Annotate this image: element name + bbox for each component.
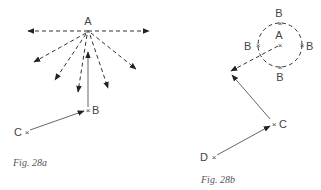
point-a-label: A [84,15,92,27]
point-b-top-marker: × [278,19,283,28]
solid-arrow-c-to-b [30,111,84,130]
dashed-arrow-down-right-1 [90,35,108,88]
dashed-arrow-down-left-1 [34,33,86,62]
point-c-marker: × [25,128,30,137]
dashed-arrow-a-to-lower-left [231,46,278,71]
figure-28a: × A × B × C Fig. 28a [12,15,149,168]
dashed-arrow-down-left-3 [78,35,87,92]
point-c-label: C [279,118,287,130]
point-c-label: C [14,126,22,138]
point-a-marker: × [86,27,91,36]
point-b-label: B [92,104,99,116]
point-b-top-label: B [275,7,282,19]
figure-caption-28a: Fig. 28a [12,157,47,168]
point-b-marker: × [86,106,91,115]
point-b-right-label: B [306,40,313,52]
point-d-label: D [200,151,208,163]
point-c-marker: × [272,120,277,129]
point-b-right-marker: × [300,41,305,50]
point-b-left-label: B [244,40,251,52]
point-b-left-marker: × [256,41,261,50]
dashed-arrow-down-right-2 [91,33,136,69]
point-a-marker: × [278,41,283,50]
diagram-canvas: × A × B × C Fig. 28a × A × B × B × B × B… [0,0,321,190]
point-d-marker: × [212,153,217,162]
solid-arrow-d-to-c [217,126,270,155]
solid-arrow-c-to-upper-left [232,75,270,119]
point-b-bottom-label: B [276,71,283,83]
figure-28b: × A × B × B × B × B × C × D Fig. 28b [200,7,313,185]
figure-caption-28b: Fig. 28b [200,174,235,185]
point-a-label: A [275,29,283,41]
